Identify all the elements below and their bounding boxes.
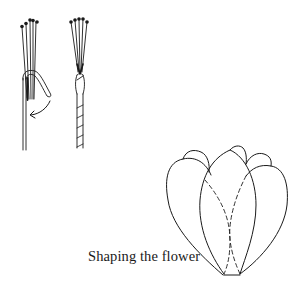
illustration-figure: Shaping the flower <box>0 0 306 295</box>
figure-caption: Shaping the flower <box>88 248 200 265</box>
tape-spiral-marks <box>77 105 83 147</box>
hidden-petal-edges <box>205 176 246 274</box>
stamens-hooked-wire-drawing <box>20 18 51 150</box>
stamens-taped-stem-drawing <box>69 17 89 148</box>
